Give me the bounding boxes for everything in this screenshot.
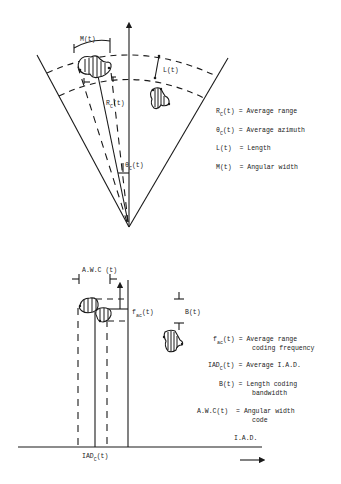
inner-range-arc <box>59 79 204 98</box>
legend-item-awc: A.W.C(t) = Angular width <box>197 408 295 415</box>
radar-diagram: M(t) L(t) RC(t) θC(t) RC(t)= Average ran… <box>0 0 341 484</box>
fac-label: fac(t) <box>132 309 154 319</box>
target-blob-iad-primary <box>79 298 98 313</box>
sector-left-edge <box>37 55 129 227</box>
awc-label: A.W.C (t) <box>82 267 117 274</box>
outer-range-arc <box>47 55 214 75</box>
range-line <box>98 76 128 222</box>
legend-item-range: RC(t)= Average range <box>216 108 297 118</box>
target-blob-iad-secondary <box>96 308 111 322</box>
legend-item-awc-cont: code <box>252 417 268 424</box>
bandwidth-label: B(t) <box>185 309 201 316</box>
bottom-legend: fac(t)= Average range coding frequency I… <box>197 336 315 424</box>
azimuth-label: θC(t) <box>125 162 144 172</box>
target-blob-secondary <box>151 88 171 109</box>
legend-item-iadc: IADC(t)= Average I.A.D. <box>208 362 301 372</box>
top-legend: RC(t)= Average range θC(t)= Average azim… <box>216 108 305 171</box>
iadc-label: IADC(t) <box>82 453 108 463</box>
angular-width-label: M(t) <box>80 36 96 43</box>
length-label: L(t) <box>163 67 179 74</box>
legend-item-azimuth: θC(t)= Average azimuth <box>216 127 305 137</box>
target-blob-primary <box>78 56 111 78</box>
legend-item-length: L(t) = Length <box>216 145 271 152</box>
legend-item-fac-cont: coding frequency <box>252 345 315 352</box>
legend-item-bandwidth: B(t)= Length coding <box>219 381 297 388</box>
length-indicator <box>155 56 159 78</box>
radial-dash-right <box>111 72 128 222</box>
legend-item-bandwidth-cont: bandwidth <box>252 390 287 397</box>
iad-axis-label: I.A.D. <box>234 435 257 442</box>
sector-diagram: M(t) L(t) RC(t) θC(t) RC(t)= Average ran… <box>37 25 305 227</box>
target-blob-iad-tertiary <box>163 330 183 352</box>
legend-item-angular-width: M(t) = Angular width <box>216 164 298 171</box>
iad-diagram: A.W.C (t) fac(t) B(t) IADC(t) I.A.D. fac… <box>18 267 315 463</box>
range-label: RC(t) <box>106 100 125 110</box>
sector-right-edge <box>129 58 228 227</box>
